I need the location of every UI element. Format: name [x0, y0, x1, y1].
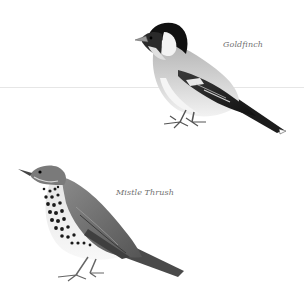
- goldfinch-illustration: [134, 18, 286, 138]
- mistle-thrush-label: Mistle Thrush: [116, 188, 174, 197]
- mistle-thrush-illustration: [18, 163, 188, 283]
- illustration-plate: Goldfinch: [0, 0, 304, 297]
- goldfinch-label: Goldfinch: [223, 40, 263, 49]
